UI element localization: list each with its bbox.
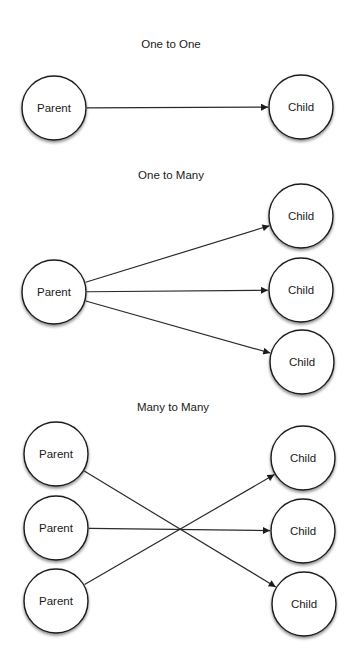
child-node-label: Child	[290, 452, 316, 464]
section-title-one-to-one: One to One	[141, 38, 200, 50]
parent-node-label: Parent	[37, 286, 72, 298]
node-many-to-many-child-c2: Child	[271, 499, 335, 563]
parent-node-label: Parent	[37, 102, 72, 114]
child-node-label: Child	[288, 210, 314, 222]
node-many-to-many-parent-p1: Parent	[24, 422, 88, 486]
node-many-to-many-child-c1: Child	[271, 426, 335, 490]
parent-node-label: Parent	[39, 448, 74, 460]
node-one-to-one-child-c1: Child	[269, 75, 333, 139]
edge-one-to-many-p1-to-c2	[87, 290, 268, 291]
child-node-label: Child	[288, 101, 314, 113]
node-many-to-many-child-c3: Child	[272, 572, 336, 636]
nodes-layer: ParentChildParentChildChildChildParentPa…	[22, 75, 336, 636]
node-many-to-many-parent-p2: Parent	[24, 496, 88, 560]
child-node-label: Child	[289, 356, 315, 368]
edge-one-to-many-p1-to-c1	[86, 226, 270, 283]
relationship-diagram: One to One One to Many Many to Many Pare…	[0, 0, 359, 671]
child-node-label: Child	[291, 598, 317, 610]
edge-many-to-many-p3-to-c1	[85, 475, 275, 585]
edge-one-to-many-p1-to-c3	[86, 301, 270, 353]
parent-node-label: Parent	[39, 595, 74, 607]
section-title-one-to-many: One to Many	[138, 169, 204, 181]
node-one-to-many-child-c2: Child	[269, 258, 333, 322]
node-one-to-many-parent-p1: Parent	[22, 260, 86, 324]
node-many-to-many-parent-p3: Parent	[24, 569, 88, 633]
node-one-to-one-parent-p1: Parent	[22, 76, 86, 140]
parent-node-label: Parent	[39, 522, 74, 534]
section-title-many-to-many: Many to Many	[137, 401, 209, 413]
edge-one-to-one-p1-to-c1	[87, 107, 268, 108]
child-node-label: Child	[288, 284, 314, 296]
node-one-to-many-child-c3: Child	[270, 330, 334, 394]
node-one-to-many-child-c1: Child	[269, 184, 333, 248]
child-node-label: Child	[290, 525, 316, 537]
